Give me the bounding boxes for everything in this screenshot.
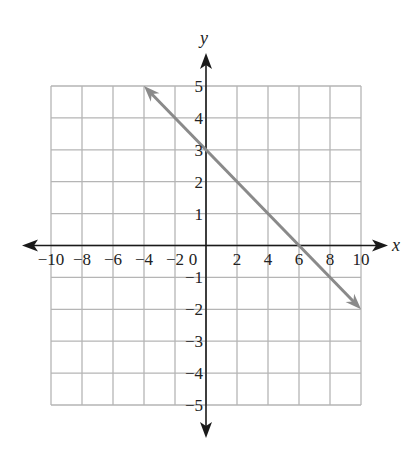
x-tick-label: −8 bbox=[73, 250, 91, 269]
x-tick-label: 2 bbox=[233, 250, 242, 269]
x-tick-label: 6 bbox=[295, 250, 304, 269]
x-tick-label: 10 bbox=[353, 250, 370, 269]
y-tick-label: −2 bbox=[185, 300, 203, 319]
x-tick-label: −2 bbox=[166, 250, 184, 269]
x-tick-label: −4 bbox=[135, 250, 154, 269]
y-tick-label: 1 bbox=[195, 205, 204, 224]
x-tick-label: 0 bbox=[189, 250, 198, 269]
y-tick-label: −1 bbox=[185, 268, 203, 287]
y-tick-label: 5 bbox=[195, 77, 204, 96]
x-tick-label: 4 bbox=[264, 250, 273, 269]
y-tick-label: 4 bbox=[195, 109, 204, 128]
y-tick-label: −5 bbox=[185, 396, 203, 415]
y-axis-label: y bbox=[198, 28, 208, 48]
axes bbox=[22, 53, 388, 438]
data-line bbox=[144, 86, 361, 309]
y-tick-label: −4 bbox=[185, 364, 204, 383]
x-tick-label: 8 bbox=[326, 250, 335, 269]
y-tick-label: 3 bbox=[195, 141, 204, 160]
series-line bbox=[150, 92, 356, 304]
y-tick-label: −3 bbox=[185, 332, 203, 351]
y-tick-label: 2 bbox=[195, 173, 204, 192]
x-axis-label: x bbox=[391, 235, 400, 255]
x-tick-label: −6 bbox=[104, 250, 122, 269]
coordinate-plane-chart: −10−8−6−4−2024681054321−1−2−3−4−5 x y bbox=[0, 0, 417, 475]
x-tick-label: −10 bbox=[38, 250, 65, 269]
